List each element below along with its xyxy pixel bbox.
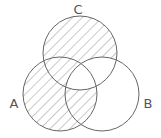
label-c: C: [73, 2, 82, 17]
hatched-regions: [0, 0, 161, 138]
label-b: B: [144, 96, 153, 111]
label-a: A: [10, 96, 19, 111]
venn-diagram: A B C: [0, 0, 161, 138]
